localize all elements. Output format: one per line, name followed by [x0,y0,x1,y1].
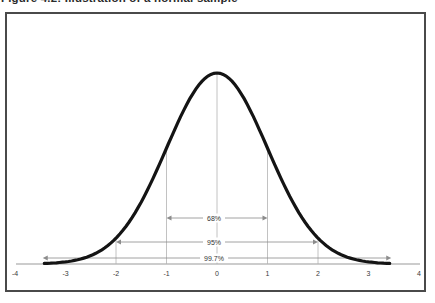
x-tick-label: 4 [417,270,421,278]
x-tick-label: -4 [12,270,18,278]
x-tick-label: 1 [266,270,270,278]
x-tick-label: -2 [113,270,119,278]
x-tick-label: -1 [163,270,169,278]
chart-frame [5,12,426,292]
x-tick-label: 3 [367,270,371,278]
x-tick-label: 2 [316,270,320,278]
annotation-label-68: 68% [203,214,225,223]
x-tick-label: 0 [215,270,219,278]
annotation-label-997: 99.7% [200,254,228,263]
x-tick-label: -3 [62,270,68,278]
annotation-label-95: 95% [203,238,225,247]
figure-caption: Figure 4.2: Illustration of a normal sam… [1,0,238,4]
